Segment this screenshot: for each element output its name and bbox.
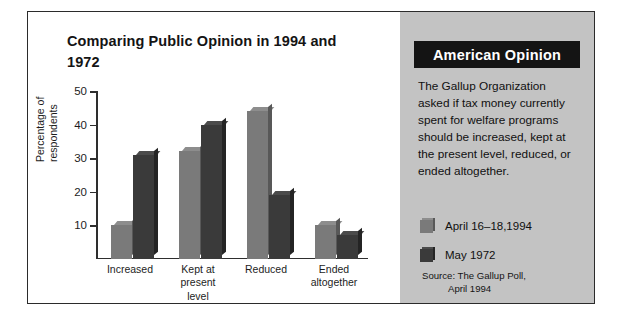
bar [247,111,268,259]
bar [179,151,200,259]
bar-side-face [290,188,294,255]
legend-item: May 1972 [420,245,585,264]
bar-group [247,91,290,259]
bar-side-face [222,117,226,255]
legend-swatch-side [433,218,435,231]
x-axis-label-line: present [158,276,238,289]
sidebar-header: American Opinion [414,41,580,68]
y-tick-label: 50 [74,85,87,97]
bar-face [269,195,290,259]
source-line-1: Source: The Gallup Poll, [422,270,526,281]
legend-label: May 1972 [445,249,496,261]
sidebar-header-label: American Opinion [433,47,561,63]
bar-face [111,225,132,259]
legend: April 16–18,1994May 1972 [420,216,585,274]
x-axis-label-line: level [158,290,238,303]
bar-group [179,91,222,259]
bar-face [201,125,222,259]
legend-swatch [420,218,435,233]
legend-swatch-face [420,220,433,233]
x-axis-label-line: Ended [294,263,374,276]
sidebar-body-text: The Gallup Organization asked if tax mon… [418,78,580,181]
y-tick-label: 20 [74,186,87,198]
source-note: Source: The Gallup Poll, April 1994 [422,270,582,295]
x-axis-label-line: altogether [294,276,374,289]
bars-layer [96,91,368,259]
american-opinion-sidebar: American Opinion The Gallup Organization… [400,12,594,303]
bar-face [337,235,358,259]
bar [269,195,290,259]
bar-face [133,155,154,259]
y-tick-label: 30 [74,152,87,164]
x-axis-label: Endedaltogether [294,263,374,290]
y-tick-label: 10 [74,219,87,231]
bar-group [111,91,154,259]
bar-face [179,151,200,259]
bar-face [315,225,336,259]
y-axis-title: Percentage of respondents [34,42,60,162]
bar [111,225,132,259]
source-line-2: April 1994 [448,283,582,296]
bar-side-face [154,147,158,255]
bar [315,225,336,259]
legend-item: April 16–18,1994 [420,216,585,235]
bar [201,125,222,259]
chart-panel: Comparing Public Opinion in 1994 and 197… [28,12,400,303]
bar [337,235,358,259]
bar-side-face [358,228,362,255]
legend-swatch [420,247,435,262]
figure-container: Comparing Public Opinion in 1994 and 197… [27,11,595,304]
bar-face [247,111,268,259]
plot-area: 1020304050 IncreasedKept atpresentlevelR… [96,91,368,259]
bar-group [315,91,358,259]
chart-title: Comparing Public Opinion in 1994 and 197… [67,31,357,72]
legend-swatch-side [433,247,435,260]
legend-swatch-face [420,249,433,262]
bar [133,155,154,259]
legend-label: April 16–18,1994 [445,220,532,232]
y-tick-label: 40 [74,119,87,131]
